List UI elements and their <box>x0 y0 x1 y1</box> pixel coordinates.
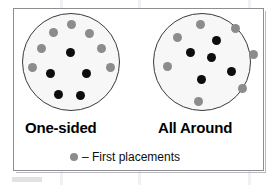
later-placement-dot <box>227 67 236 76</box>
first-placement-dot <box>163 62 172 71</box>
first-placement-dot <box>85 29 94 38</box>
figure-root: One-sided All Around – First placements <box>0 0 277 185</box>
panel-label-one-sided: One-sided <box>25 119 97 136</box>
later-placement-dot <box>54 90 63 99</box>
frame-shadow-right <box>265 11 266 172</box>
panel-label-all-around: All Around <box>158 119 232 136</box>
first-placement-dot-icon <box>70 153 78 161</box>
later-placement-dot <box>212 36 221 45</box>
legend-label: – First placements <box>82 150 180 164</box>
first-placement-dot <box>37 44 46 53</box>
first-placement-dot <box>49 28 58 37</box>
later-placement-dot <box>82 69 91 78</box>
first-placement-dot <box>249 50 258 59</box>
scan-smudge-artifact <box>12 177 42 182</box>
later-placement-dot <box>186 48 195 57</box>
first-placement-dot <box>231 24 240 33</box>
first-placement-dot <box>173 33 182 42</box>
first-placement-dot <box>238 84 247 93</box>
later-placement-dot <box>76 91 85 100</box>
later-placement-dot <box>46 69 55 78</box>
legend: – First placements <box>70 150 180 164</box>
first-placement-dot <box>28 63 37 72</box>
first-placement-dot <box>67 20 76 29</box>
later-placement-dot <box>197 75 206 84</box>
first-placement-dot <box>196 20 205 29</box>
later-placement-dot <box>207 53 216 62</box>
first-placement-dot <box>106 63 115 72</box>
frame-shadow-bottom <box>16 172 266 173</box>
later-placement-dot <box>66 48 75 57</box>
first-placement-dot <box>194 97 203 106</box>
first-placement-dot <box>97 44 106 53</box>
